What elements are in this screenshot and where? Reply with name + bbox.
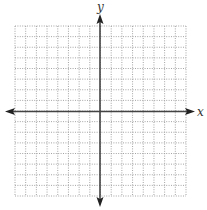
y-axis-label: y xyxy=(96,0,104,14)
x-axis-label: x xyxy=(197,105,204,119)
coordinate-plane: x y xyxy=(0,0,207,210)
axes xyxy=(5,14,195,207)
